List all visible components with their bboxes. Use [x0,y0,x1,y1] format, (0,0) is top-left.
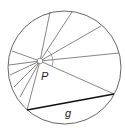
point-P [37,58,43,64]
ray-line [40,61,114,94]
ray-line [27,61,40,110]
circle-diagram: P g [0,0,125,130]
label-P: P [41,70,49,82]
ray-line [20,61,40,97]
label-g: g [65,107,72,119]
angle-arc [47,50,53,66]
ray-line [14,61,40,87]
ray-line [12,51,40,61]
